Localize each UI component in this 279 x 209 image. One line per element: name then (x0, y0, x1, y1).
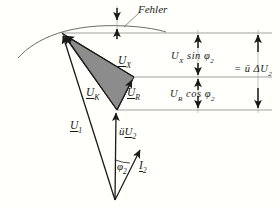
vector-i2 (115, 150, 140, 200)
label-ux-sin-phi2: UX sin φ2 (171, 51, 214, 64)
label-total-drop: = ü ΔU2 (234, 64, 272, 77)
label-u1: U1 (70, 120, 82, 134)
label-ur: UR (127, 87, 140, 101)
label-ur-cos-phi2: UR cos φ2 (170, 89, 215, 102)
label-ue-u2: üU2 (119, 126, 136, 140)
vector-ue-u2 (115, 113, 116, 200)
label-i2: I2 (139, 160, 147, 174)
label-fehler: Fehler (138, 4, 167, 15)
diagram-canvas (0, 0, 279, 209)
phasor-diagram-figure: Fehler UX UR UK U1 üU2 φ2 I2 UX sin φ2 U… (0, 0, 279, 209)
label-uk: UK (86, 87, 100, 101)
label-phi2: φ2 (117, 161, 127, 175)
label-ux: UX (118, 55, 131, 69)
